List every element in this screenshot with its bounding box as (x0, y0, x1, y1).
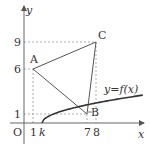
tick-labels: 1k78169 (14, 36, 100, 139)
x-tick-label: 8 (93, 126, 100, 139)
point-label-b: B (91, 106, 99, 119)
x-tick-label: 7 (84, 126, 91, 139)
x-tick-label: 1 (30, 126, 37, 139)
y-tick-label: 1 (14, 108, 21, 121)
x-axis-label: x (138, 128, 145, 141)
y-tick-label: 6 (14, 63, 21, 76)
origin-label: O (13, 126, 22, 139)
y-axis-label: y (25, 4, 33, 17)
point-label-c: C (98, 29, 106, 42)
point-label-a: A (29, 53, 39, 66)
x-tick-label: k (39, 126, 46, 139)
curve-label: y=f(x) (103, 83, 138, 96)
coordinate-diagram: y x O 1k78169 ABC y=f(x) (0, 0, 150, 148)
triangle-outline (33, 42, 96, 114)
triangle-abc (33, 42, 96, 114)
y-tick-label: 9 (14, 36, 21, 49)
